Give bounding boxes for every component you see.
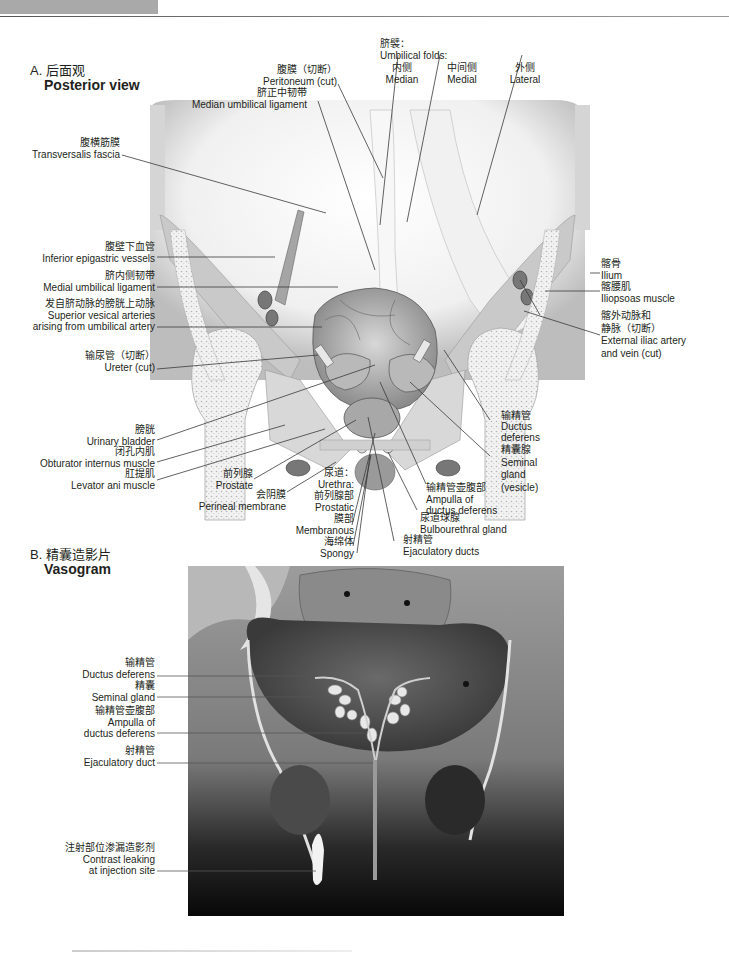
footer-rule [72, 950, 352, 952]
vasogram-label-ejaculatory-duct: 射精管Ejaculatory duct [84, 745, 155, 768]
vasogram-label-ductus-deferens: 输精管Ductus deferens [82, 657, 155, 680]
vasogram-label-ampulla: 输精管壶腹部Ampulla ofductus deferens [84, 705, 155, 740]
vasogram-label-contrast-leak: 注射部位渗漏造影剂Contrast leakingat injection si… [65, 842, 155, 877]
vasogram-xray [0, 0, 729, 955]
vasogram-label-seminal-gland: 精囊Seminal gland [92, 680, 155, 703]
